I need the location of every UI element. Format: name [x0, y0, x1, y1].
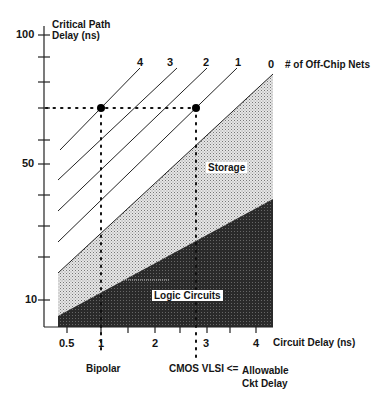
- storage-label: Storage: [206, 162, 247, 173]
- x-axis-title: Circuit Delay (ns): [273, 337, 355, 348]
- y-axis-title-line1: Critical Path: [52, 19, 110, 30]
- bipolar-label: Bipolar: [86, 363, 120, 374]
- cmos-vlsi-label: CMOS VLSI <=: [169, 363, 238, 374]
- net-label-1: 1: [235, 56, 241, 68]
- y-axis-title-line2: Delay (ns): [52, 30, 100, 41]
- logic-circuits-label: Logic Circuits: [152, 290, 223, 301]
- net-label-2: 2: [203, 56, 209, 68]
- net-label-4: 4: [137, 56, 143, 68]
- x-tick-0.5: 0.5: [59, 337, 74, 349]
- x-tick-1: 1: [98, 337, 104, 349]
- allowable-label: Allowable: [242, 365, 289, 376]
- ckt-delay-label: Ckt Delay: [242, 378, 288, 389]
- x-tick-4: 4: [253, 337, 259, 349]
- x-tick-3: 3: [203, 337, 209, 349]
- bipolar-marker: [97, 104, 105, 112]
- nets-legend-title: # of Off-Chip Nets: [285, 59, 370, 70]
- y-tick-100: 100: [16, 28, 34, 40]
- x-tick-2: 2: [152, 337, 158, 349]
- x-ticks: [67, 327, 256, 333]
- y-tick-10: 10: [25, 293, 37, 305]
- line-3: [58, 68, 177, 180]
- net-label-0: 0: [268, 58, 274, 70]
- y-tick-50: 50: [22, 157, 34, 169]
- cmos-marker: [192, 104, 200, 112]
- net-label-3: 3: [167, 56, 173, 68]
